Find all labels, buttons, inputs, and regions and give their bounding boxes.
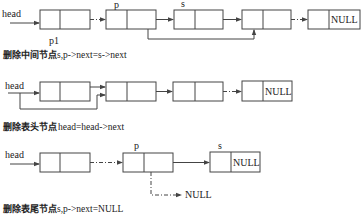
branch-null-text: NULL <box>185 189 212 200</box>
node-3 <box>173 82 223 101</box>
pointer-label-p: p <box>114 0 119 10</box>
node-1 <box>40 10 90 29</box>
caption-delete-tail: 删除表尾节点s,p->next=NULL <box>3 203 124 214</box>
pointer-label-s: s <box>218 140 222 151</box>
section-delete-head: head NULL 删除表头节点head=head->next <box>3 80 292 132</box>
pointer-label-p1: p1 <box>49 35 59 46</box>
bypass-arrow-icon <box>148 29 254 39</box>
null-text: NULL <box>331 14 358 25</box>
node-s <box>174 10 223 29</box>
head-label: head <box>5 80 24 91</box>
null-text: NULL <box>233 157 260 168</box>
node-p <box>106 10 156 29</box>
linked-list-deletion-diagram: head p1 p s NULL <box>0 0 363 221</box>
pointer-label-s: s <box>181 0 185 9</box>
node-2 <box>106 82 156 101</box>
head-label: head <box>2 8 21 19</box>
node-p <box>123 153 173 172</box>
caption-delete-middle: 删除中间节点s,p->next=s->next <box>3 49 127 60</box>
section-delete-middle: head p1 p s NULL <box>2 0 360 60</box>
caption-delete-head: 删除表头节点head=head->next <box>3 121 124 132</box>
node-1 <box>40 82 90 101</box>
node-4 <box>242 10 291 29</box>
null-branch-arrow-icon <box>151 172 181 195</box>
head-label: head <box>5 149 24 160</box>
pointer-label-p: p <box>134 140 139 151</box>
section-delete-tail: head p s NULL NULL 删除表尾节点s,p->next=NULL <box>3 140 260 214</box>
node-1 <box>40 153 90 172</box>
null-text: NULL <box>265 86 292 97</box>
